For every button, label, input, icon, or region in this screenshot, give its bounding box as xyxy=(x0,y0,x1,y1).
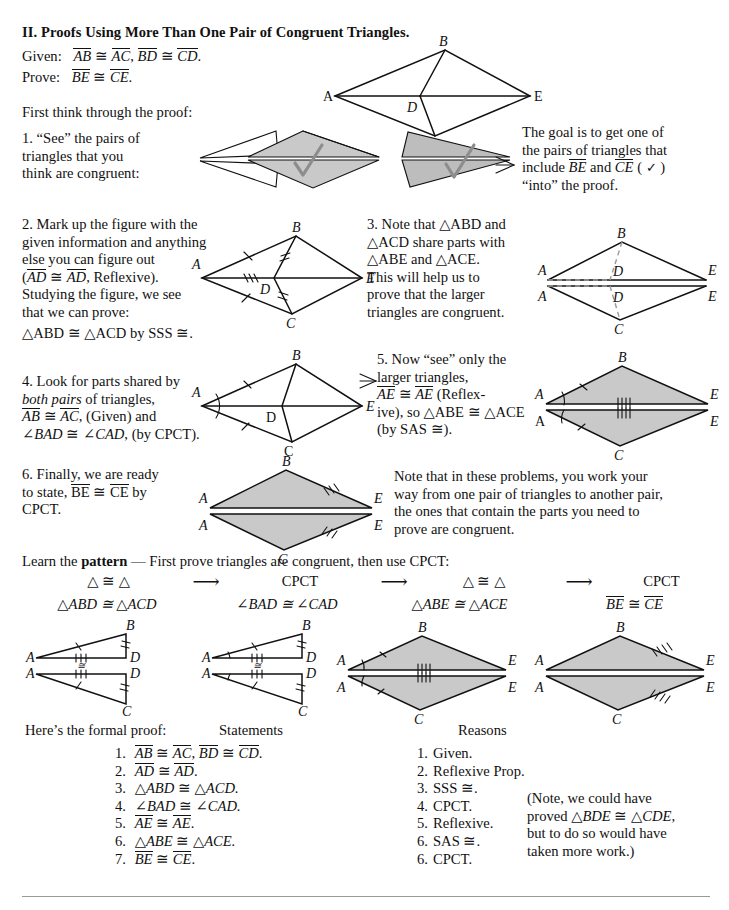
statements-header: Statements xyxy=(219,722,283,740)
pattern-header-1: △ ≅ △ xyxy=(46,573,171,591)
vertex-label-D-upper: D xyxy=(305,650,316,665)
step-5-line-3: AE ≅ AE (Reflex- xyxy=(377,386,537,404)
vertex-label-E-upper: E xyxy=(705,653,715,668)
vertex-label-A-lower: A xyxy=(25,666,35,681)
vertex-label-A-upper: A xyxy=(198,491,208,506)
figure-kite-top: A B C D E xyxy=(325,38,545,138)
pattern-header-row: △ ≅ △ ⟶ CPCT ⟶ △ ≅ △ ⟶ CPCT xyxy=(46,573,706,591)
figure-step4-kite-angles: A B C D E xyxy=(186,350,366,446)
reasons-list: 1.Given. 2.Reflexive Prop. 3.SSS ≅. 4.CP… xyxy=(408,745,528,868)
figure-pattern-be-ce: A A B C E E xyxy=(534,616,714,716)
vertex-label-C: C xyxy=(612,712,622,727)
vertex-label-B: B xyxy=(618,350,627,365)
statement-row-6: 6. △ABE ≅ △ACE. xyxy=(106,833,396,851)
vertex-label-C: C xyxy=(298,704,308,719)
prove-line: Prove: BE ≅ CE. xyxy=(22,69,132,87)
vertex-label-B: B xyxy=(616,620,625,635)
vertex-label-A: A xyxy=(191,385,201,400)
pattern-header-3: △ ≅ △ xyxy=(429,573,539,591)
figure-step6-shaded-split-kite: A A B C E E xyxy=(196,452,386,554)
vertex-label-C: C xyxy=(614,322,624,337)
vertex-label-A-lower: A xyxy=(534,680,544,695)
vertex-label-E-upper: E xyxy=(709,387,719,402)
vertex-label-D-lower: D xyxy=(305,666,316,681)
reasons-header: Reasons xyxy=(458,722,507,740)
statements-list: 1. AB ≅ AC, BD ≅ CD. 2. AD ≅ AD. 3. △ABD… xyxy=(106,745,396,868)
goal-note: The goal is to get one of the pairs of t… xyxy=(522,124,722,194)
pattern-arrow-2: ⟶ xyxy=(359,575,429,589)
prove-statement: BE ≅ CE. xyxy=(72,69,132,85)
step-5-text: 5. Now “see” only the larger triangles, … xyxy=(377,351,537,439)
statement-row-3: 3. △ABD ≅ △ACD. xyxy=(106,780,396,798)
vertex-label-B: B xyxy=(302,618,311,633)
reason-row-3: 3.SSS ≅. xyxy=(408,780,528,798)
vertex-label-B: B xyxy=(282,454,291,469)
goal-note-line-3: include BE and CE ( ✓ ) xyxy=(522,159,722,177)
textbook-page: II. Proofs Using More Than One Pair of C… xyxy=(0,0,729,910)
vertex-label-E-upper: E xyxy=(707,263,717,278)
figure-step2-marked-kite: A B C D E xyxy=(186,222,366,318)
vertex-label-A: A xyxy=(191,257,201,272)
vertex-label-A-upper: A xyxy=(336,653,346,668)
congruent-glyph: ≅ xyxy=(77,660,86,671)
vertex-label-D-lower: D xyxy=(129,666,140,681)
vertex-label-A-upper: A xyxy=(534,387,544,402)
pattern-lead: Learn the pattern — First prove triangle… xyxy=(22,553,449,571)
vertex-label-B: B xyxy=(617,226,626,241)
reason-row-1: 1.Given. xyxy=(408,745,528,763)
figure-pattern-abd-acd: A A B D D C ≅ xyxy=(26,616,176,716)
vertex-label-A-upper: A xyxy=(25,650,35,665)
pattern-header-4: CPCT xyxy=(619,573,704,591)
figure-step3-split-kite: A A B C D D E E xyxy=(536,222,721,324)
statement-row-7: 7. BE ≅ CE. xyxy=(106,851,396,869)
vertex-label-D: D xyxy=(259,282,270,297)
vertex-label-D-upper: D xyxy=(612,264,623,279)
given-label: Given: xyxy=(22,48,62,64)
statement-row-1: 1. AB ≅ AC, BD ≅ CD. xyxy=(106,745,396,763)
vertex-label-E-lower: E xyxy=(709,414,719,429)
pattern-results-row: △ABD ≅ △ACD ∠BAD ≅ ∠CAD △ABE ≅ △ACE BE ≅… xyxy=(12,596,722,614)
figure-pattern-angle-bad-cad: A A B D D C ≅ xyxy=(202,616,352,716)
pattern-result-2: ∠BAD ≅ ∠CAD xyxy=(202,596,372,614)
statement-row-2: 2. AD ≅ AD. xyxy=(106,763,396,781)
pattern-arrow-3: ⟶ xyxy=(539,575,619,589)
vertex-label-E-upper: E xyxy=(373,491,383,506)
reason-row-7: 6.CPCT. xyxy=(408,851,528,869)
vertex-label-A-upper: A xyxy=(537,263,547,278)
prove-label: Prove: xyxy=(22,69,60,85)
aside-line-2: proved △BDE ≅ △CDE, xyxy=(527,808,727,826)
pattern-arrow-1: ⟶ xyxy=(171,575,241,589)
vertex-label-E-lower: E xyxy=(707,289,717,304)
vertex-label-D: D xyxy=(406,100,417,115)
reason-row-6: 6.SAS ≅. xyxy=(408,833,528,851)
vertex-label-E-upper: E xyxy=(507,653,517,668)
vertex-label-B: B xyxy=(439,34,448,49)
vertex-label-A-lower: A xyxy=(198,518,208,533)
vertex-label-A-lower: A xyxy=(535,414,546,429)
vertex-label-E-lower: E xyxy=(705,680,715,695)
pattern-result-3: △ABE ≅ △ACE xyxy=(372,596,547,614)
vertex-label-E-lower: E xyxy=(507,680,517,695)
pattern-header-2: CPCT xyxy=(241,573,359,591)
step-6-line-2: to state, BE ≅ CE by xyxy=(22,484,192,502)
step-3-text: 3. Note that △ABD and △ACD share parts w… xyxy=(367,216,527,322)
vertex-label-D-lower: D xyxy=(612,290,623,305)
vertex-label-A-lower: A xyxy=(336,680,346,695)
pattern-result-1: △ABD ≅ △ACD xyxy=(12,596,202,614)
intro-line: First think through the proof: xyxy=(22,104,192,122)
goal-arrow-icon xyxy=(494,155,520,177)
page-bottom-rule xyxy=(22,896,710,897)
reason-row-5: 5.Reflexive. xyxy=(408,815,528,833)
vertex-label-C: C xyxy=(122,704,132,719)
pattern-result-4: BE ≅ CE xyxy=(547,596,722,614)
proof-aside-note: (Note, we could have proved △BDE ≅ △CDE,… xyxy=(527,790,727,860)
vertex-label-A: A xyxy=(323,89,334,104)
vertex-label-B: B xyxy=(292,348,301,363)
vertex-label-B: B xyxy=(292,220,301,235)
vertex-label-E-lower: E xyxy=(373,518,383,533)
vertex-label-E: E xyxy=(365,399,375,414)
statement-row-5: 5. AE ≅ AE. xyxy=(106,815,396,833)
vertex-label-A-lower: A xyxy=(201,666,211,681)
vertex-label-A-upper: A xyxy=(201,650,211,665)
vertex-label-C: C xyxy=(414,712,424,727)
